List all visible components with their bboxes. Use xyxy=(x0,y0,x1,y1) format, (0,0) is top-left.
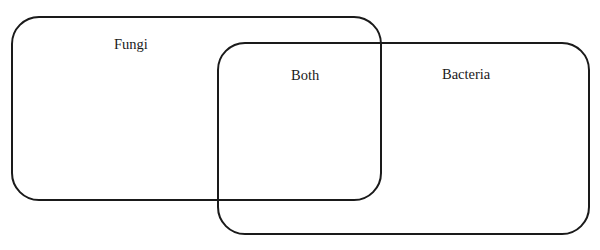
bacteria-label: Bacteria xyxy=(442,66,490,82)
fungi-label: Fungi xyxy=(114,36,148,52)
bacteria-set-region xyxy=(217,42,590,235)
venn-diagram: Fungi Both Bacteria xyxy=(0,0,600,250)
both-label: Both xyxy=(291,67,319,83)
